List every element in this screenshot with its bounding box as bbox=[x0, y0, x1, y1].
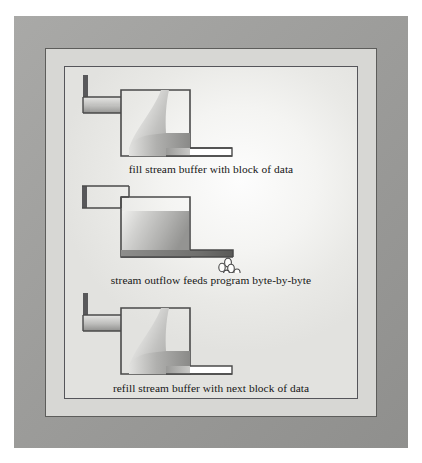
droplet bbox=[234, 269, 240, 273]
diagram-outflow-art bbox=[65, 178, 359, 273]
diagram-refill-art bbox=[65, 289, 359, 381]
diagram-refill-caption: refill stream buffer with next block of … bbox=[65, 382, 357, 394]
figure-content-panel: fill stream buffer with block of data bbox=[64, 66, 358, 399]
diagram-outflow: stream outflow feeds program byte-by-byt… bbox=[65, 178, 357, 288]
inlet-flow-refill bbox=[83, 293, 121, 331]
diagram-outflow-caption: stream outflow feeds program byte-by-byt… bbox=[65, 274, 357, 286]
tank-fluid-fill bbox=[129, 90, 190, 156]
outlet-pipe-outflow bbox=[121, 250, 233, 257]
tank-fluid-refill bbox=[129, 308, 190, 374]
droplet bbox=[224, 270, 230, 273]
outflow-droplets bbox=[219, 258, 240, 273]
diagram-fill-caption: fill stream buffer with block of data bbox=[65, 163, 357, 175]
tank-fluid-outflow bbox=[122, 211, 189, 256]
diagram-fill: fill stream buffer with block of data bbox=[65, 71, 357, 179]
diagram-fill-art bbox=[65, 71, 359, 163]
outlet-pipe-fill bbox=[166, 148, 232, 156]
diagram-refill: refill stream buffer with next block of … bbox=[65, 289, 357, 399]
outlet-pipe-refill bbox=[166, 366, 232, 374]
figure-root: fill stream buffer with block of data bbox=[0, 0, 422, 463]
inlet-flow-fill bbox=[83, 75, 121, 113]
